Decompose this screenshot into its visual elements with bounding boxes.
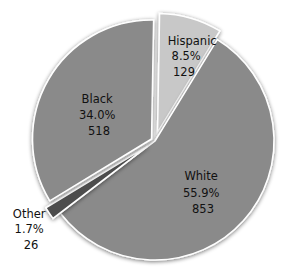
pie-chart: Hispanic 8.5% 129 White 55.9% 853 Other … bbox=[0, 0, 288, 280]
label-other: Other 1.7% 26 bbox=[13, 207, 49, 252]
pie-slices bbox=[33, 13, 274, 260]
